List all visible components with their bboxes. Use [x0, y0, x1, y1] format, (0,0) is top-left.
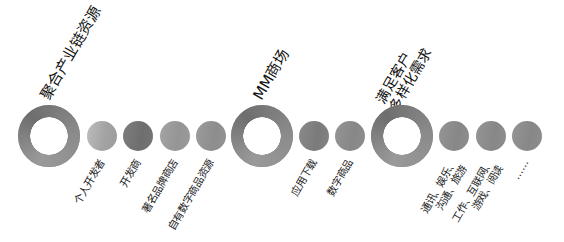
- label-app-download: 应用下载: [288, 157, 318, 198]
- heading-aggregate-industry-chain: 聚合产业链资源: [37, 4, 104, 103]
- ring-icon: [18, 105, 80, 167]
- node-own-digital-goods: [196, 121, 226, 151]
- ring-icon: [371, 105, 433, 167]
- heading-mm-store: MM商场: [250, 46, 293, 103]
- node-comm-entertainment: [439, 121, 469, 151]
- heading-diverse-needs: 满足客户 多样化需求: [372, 37, 435, 114]
- label-developer: 开发商: [117, 157, 142, 189]
- node-developer: [123, 121, 153, 151]
- node-more: [512, 121, 542, 151]
- label-more: ……: [510, 157, 531, 181]
- node-famous-brand-store: [160, 121, 190, 151]
- node-app-download: [299, 121, 329, 151]
- node-individual-developer: [87, 121, 117, 151]
- label-famous-brand-store: 著名品牌商店: [139, 157, 179, 215]
- ring-icon: [231, 105, 293, 167]
- node-digital-goods: [335, 121, 365, 151]
- label-individual-developer: 个人开发者: [71, 157, 106, 206]
- node-work-internet: [476, 121, 506, 151]
- label-digital-goods: 数字商品: [324, 157, 354, 198]
